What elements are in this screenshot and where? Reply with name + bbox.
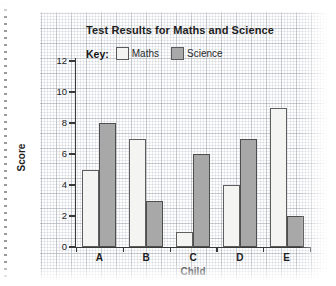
chart-title: Test Results for Maths and Science (60, 24, 300, 36)
bar-chart: Test Results for Maths and Science Key: … (0, 0, 336, 286)
graph-paper-worksheet: Test Results for Maths and Science Key: … (0, 0, 336, 286)
y-tick-mark-0 (69, 246, 75, 247)
y-axis-line (75, 58, 76, 248)
y-tick-label-4: 4 (40, 179, 67, 190)
bar-C-maths[interactable] (176, 232, 193, 248)
legend-item-science[interactable]: Science (171, 47, 223, 60)
x-tick-mark-5 (310, 247, 311, 252)
legend-label-science: Science (187, 48, 223, 59)
legend-item-maths[interactable]: Maths (116, 47, 159, 60)
y-tick-label-8: 8 (40, 117, 67, 128)
x-category-label-A: A (76, 252, 122, 263)
y-tick-mark-6 (69, 153, 75, 154)
x-category-label-D: D (217, 252, 263, 263)
bar-B-maths[interactable] (129, 139, 146, 248)
legend-swatch-science-icon (171, 47, 184, 60)
bar-E-maths[interactable] (270, 108, 287, 248)
chart-legend: Key: Maths Science (86, 47, 223, 60)
bar-D-science[interactable] (240, 139, 257, 248)
y-tick-mark-4 (69, 184, 75, 185)
y-tick-mark-8 (69, 122, 75, 123)
y-axis-title: Score (16, 128, 27, 188)
legend-label-maths: Maths (132, 48, 159, 59)
bar-A-science[interactable] (99, 123, 116, 247)
y-tick-label-10: 10 (40, 86, 67, 97)
bar-A-maths[interactable] (82, 170, 99, 248)
legend-swatch-maths-icon (116, 47, 129, 60)
bar-B-science[interactable] (146, 201, 163, 248)
x-category-label-E: E (264, 252, 310, 263)
legend-key-label: Key: (86, 48, 109, 60)
bar-D-maths[interactable] (223, 185, 240, 247)
y-tick-label-6: 6 (40, 148, 67, 159)
bar-E-science[interactable] (287, 216, 304, 247)
x-category-label-C: C (170, 252, 216, 263)
bar-C-science[interactable] (193, 154, 210, 247)
y-tick-mark-10 (69, 91, 75, 92)
x-axis-title: Child (75, 266, 311, 277)
y-tick-label-2: 2 (40, 210, 67, 221)
y-tick-mark-12 (69, 60, 75, 61)
y-tick-label-0: 0 (40, 241, 67, 252)
y-tick-label-12: 12 (40, 55, 67, 66)
y-tick-mark-2 (69, 215, 75, 216)
x-category-label-B: B (123, 252, 169, 263)
